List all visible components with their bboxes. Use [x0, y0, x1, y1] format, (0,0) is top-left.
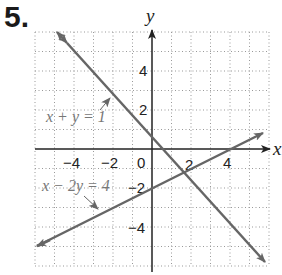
y-tick-label: −4: [128, 219, 145, 236]
equation-label-2: x − 2y = 4: [41, 177, 110, 195]
arrow-head-icon: [37, 240, 50, 246]
x-axis-label: x: [272, 138, 282, 159]
y-axis-label: y: [144, 5, 155, 26]
coordinate-graph: x y −4 −2 0 2 4 4 2 −2 −4 x + y = 1 x − …: [0, 0, 282, 275]
y-tick-label: 2: [139, 101, 147, 118]
y-tick-label: 4: [139, 62, 147, 79]
equation-label-1: x + y = 1: [45, 108, 106, 126]
x-tick-label: −4: [63, 154, 80, 171]
line-x-plus-y-eq-1: [67, 43, 265, 262]
x-tick-label: 4: [223, 154, 231, 171]
x-tick-label: 0: [137, 154, 145, 171]
x-tick-label: −2: [101, 154, 118, 171]
arrow-head-icon: [57, 32, 67, 43]
